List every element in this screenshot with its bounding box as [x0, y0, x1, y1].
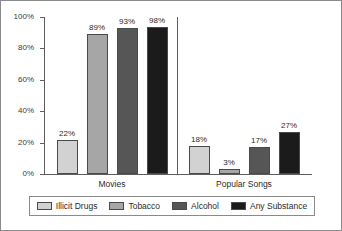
bar-group-movies: 22% 89% 93% 98%	[48, 17, 176, 174]
bar-value-label: 27%	[281, 122, 297, 130]
legend-swatch-icon	[37, 202, 52, 210]
y-tick-mark: 100%	[40, 17, 44, 18]
legend-item-any-substance[interactable]: Any Substance	[231, 202, 307, 211]
bar-slot: 18%	[189, 17, 210, 174]
legend-swatch-icon	[172, 202, 187, 210]
legend-label: Any Substance	[250, 202, 307, 211]
bar-value-label: 93%	[119, 18, 135, 26]
bar-value-label: 89%	[89, 24, 105, 32]
y-axis-label: 100%	[14, 13, 34, 21]
bar-slot: 98%	[147, 17, 168, 174]
y-axis-label: 40%	[18, 107, 34, 115]
y-tick-mark: 20%	[40, 143, 44, 144]
legend-label: Alcohol	[191, 202, 219, 211]
group-divider-line	[177, 17, 178, 175]
y-tick-mark: 0%	[40, 174, 44, 175]
legend-label: Tobacco	[128, 202, 160, 211]
bar-slot: 17%	[249, 17, 270, 174]
bar-group-popular-songs: 18% 3% 17% 27%	[180, 17, 308, 174]
bar-any-substance-movies[interactable]	[147, 27, 168, 174]
y-tick-mark: 80%	[40, 48, 44, 49]
plot-area: 100% 80% 60% 40% 20% 0% 22% 89%	[44, 17, 312, 175]
bar-value-label: 22%	[59, 130, 75, 138]
bar-illicit-drugs-popular-songs[interactable]	[189, 146, 210, 174]
y-tick-mark: 40%	[40, 111, 44, 112]
bar-slot: 27%	[279, 17, 300, 174]
category-label-popular-songs: Popular Songs	[180, 180, 308, 189]
bar-value-label: 18%	[191, 136, 207, 144]
y-axis-label: 0%	[22, 170, 34, 178]
bar-tobacco-movies[interactable]	[87, 34, 108, 174]
legend-item-illicit-drugs[interactable]: Illicit Drugs	[37, 202, 98, 211]
y-tick-mark: 60%	[40, 80, 44, 81]
legend-item-alcohol[interactable]: Alcohol	[172, 202, 219, 211]
bar-alcohol-movies[interactable]	[117, 28, 138, 174]
y-axis-label: 20%	[18, 139, 34, 147]
legend-swatch-icon	[109, 202, 124, 210]
y-axis-label: 60%	[18, 76, 34, 84]
chart-legend: Illicit Drugs Tobacco Alcohol Any Substa…	[29, 196, 315, 216]
legend-swatch-icon	[231, 202, 246, 210]
y-axis-line	[44, 17, 45, 175]
bar-alcohol-popular-songs[interactable]	[249, 147, 270, 174]
y-axis-label: 80%	[18, 44, 34, 52]
bar-slot: 22%	[57, 17, 78, 174]
bar-slot: 93%	[117, 17, 138, 174]
bar-slot: 89%	[87, 17, 108, 174]
bar-slot: 3%	[219, 17, 240, 174]
category-label-movies: Movies	[48, 180, 176, 189]
bar-any-substance-popular-songs[interactable]	[279, 132, 300, 174]
bar-value-label: 3%	[223, 159, 235, 167]
legend-item-tobacco[interactable]: Tobacco	[109, 202, 160, 211]
bar-illicit-drugs-movies[interactable]	[57, 140, 78, 175]
bar-tobacco-popular-songs[interactable]	[219, 169, 240, 174]
bar-chart-figure: 100% 80% 60% 40% 20% 0% 22% 89%	[0, 0, 342, 231]
legend-label: Illicit Drugs	[56, 202, 98, 211]
bar-value-label: 17%	[251, 137, 267, 145]
bar-value-label: 98%	[149, 17, 165, 25]
x-axis-line	[44, 174, 312, 175]
